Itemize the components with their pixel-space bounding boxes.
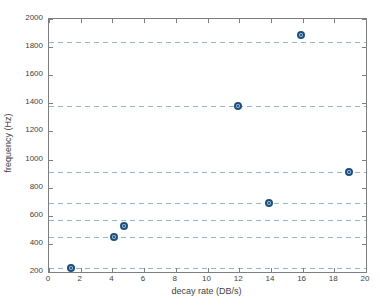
x-tick-label: 0 (33, 274, 63, 283)
y-tick-label: 2000 (3, 13, 43, 22)
x-tick-mark (112, 268, 113, 272)
x-tick-label: 16 (287, 274, 317, 283)
y-tick-label: 1200 (3, 125, 43, 134)
x-tick-mark (303, 19, 304, 23)
y-tick-label: 600 (3, 210, 43, 219)
y-tick-mark (362, 188, 366, 189)
x-tick-mark (176, 268, 177, 272)
data-point (345, 168, 353, 176)
y-tick-mark (49, 244, 53, 245)
data-point (110, 233, 118, 241)
data-point (234, 102, 242, 110)
x-tick-mark (303, 268, 304, 272)
y-tick-mark (362, 244, 366, 245)
dashed-gridline (49, 220, 366, 221)
x-tick-label: 12 (223, 274, 253, 283)
x-tick-mark (366, 19, 367, 23)
x-tick-mark (81, 19, 82, 23)
x-tick-mark (208, 19, 209, 23)
y-tick-label: 800 (3, 182, 43, 191)
y-tick-mark (49, 160, 53, 161)
x-tick-label: 10 (192, 274, 222, 283)
x-tick-mark (239, 19, 240, 23)
x-tick-mark (176, 19, 177, 23)
y-tick-label: 400 (3, 238, 43, 247)
x-tick-label: 4 (96, 274, 126, 283)
y-tick-mark (362, 216, 366, 217)
x-tick-label: 14 (255, 274, 285, 283)
y-tick-label: 1000 (3, 154, 43, 163)
plot-area (48, 18, 367, 273)
y-tick-mark (362, 19, 366, 20)
y-tick-label: 200 (3, 266, 43, 275)
y-tick-label: 1600 (3, 69, 43, 78)
y-tick-mark (49, 19, 53, 20)
y-tick-label: 1800 (3, 41, 43, 50)
y-tick-mark (362, 272, 366, 273)
x-tick-label: 8 (160, 274, 190, 283)
x-tick-mark (144, 268, 145, 272)
x-tick-mark (334, 268, 335, 272)
y-tick-mark (49, 47, 53, 48)
y-tick-mark (49, 216, 53, 217)
x-tick-mark (112, 19, 113, 23)
dashed-gridline (49, 106, 366, 107)
x-tick-label: 18 (318, 274, 348, 283)
y-tick-mark (49, 75, 53, 76)
y-tick-mark (362, 47, 366, 48)
y-tick-label: 1400 (3, 97, 43, 106)
x-tick-mark (81, 268, 82, 272)
data-point (297, 31, 305, 39)
data-point (67, 264, 75, 272)
y-tick-mark (362, 75, 366, 76)
x-tick-label: 2 (65, 274, 95, 283)
figure: decay rate (DB/s) frequency (Hz) 0246810… (0, 0, 380, 308)
x-tick-mark (208, 268, 209, 272)
y-tick-mark (49, 272, 53, 273)
x-tick-mark (239, 268, 240, 272)
y-tick-mark (362, 103, 366, 104)
x-tick-mark (271, 19, 272, 23)
x-tick-mark (144, 19, 145, 23)
dashed-gridline (49, 203, 366, 204)
x-tick-label: 6 (128, 274, 158, 283)
x-tick-label: 20 (350, 274, 380, 283)
dashed-gridline (49, 42, 366, 43)
x-tick-mark (271, 268, 272, 272)
y-tick-mark (362, 131, 366, 132)
x-axis-label: decay rate (DB/s) (48, 286, 365, 296)
y-tick-mark (49, 103, 53, 104)
y-tick-mark (49, 131, 53, 132)
y-tick-mark (362, 160, 366, 161)
data-point (120, 222, 128, 230)
dashed-gridline (49, 237, 366, 238)
data-point (265, 199, 273, 207)
dashed-gridline (49, 172, 366, 173)
x-tick-mark (334, 19, 335, 23)
x-tick-mark (366, 268, 367, 272)
y-tick-mark (49, 188, 53, 189)
